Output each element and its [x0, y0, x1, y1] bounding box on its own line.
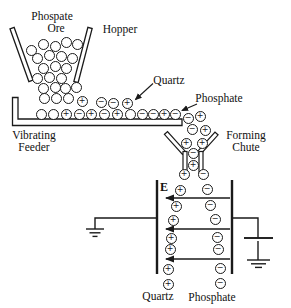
- left-ground-circuit: [86, 218, 156, 236]
- quartz-particle: +: [77, 96, 88, 107]
- phosphate-particle: −: [198, 169, 209, 180]
- ore-particle: [32, 53, 43, 64]
- quartz-particle: +: [163, 264, 174, 275]
- ore-particle: [56, 51, 67, 62]
- electrostatic-separation-diagram: +−−++−+−+−−+−−+−+++−++−+−+−+−+−+−+−+− Ph…: [0, 0, 291, 308]
- phosphate-particle: −: [74, 109, 85, 120]
- quartz-particle: +: [61, 109, 72, 120]
- phosphate-particle: −: [210, 214, 221, 225]
- quartz-particle: +: [122, 98, 133, 109]
- quartz-particle: +: [175, 185, 186, 196]
- quartz-particle: +: [159, 109, 170, 120]
- phosphate-particle: −: [202, 184, 213, 195]
- ore-particle: [48, 109, 59, 120]
- ore-particle: [61, 63, 72, 74]
- left-plate-wire: [95, 218, 156, 229]
- phosphate-particle: −: [215, 278, 226, 289]
- forming-chute-label-line2: Chute: [232, 141, 259, 153]
- quartz-particle: +: [165, 244, 176, 255]
- quartz-particle: +: [86, 109, 97, 120]
- quartz-particle: +: [195, 111, 206, 122]
- ore-particle: [50, 82, 61, 93]
- quartz-particle: +: [197, 138, 208, 149]
- separator-left-plate: [156, 180, 158, 274]
- vibrating-feeder-label-line2: Feeder: [18, 141, 49, 153]
- ore-particle: [72, 39, 83, 50]
- ore-particle: [63, 93, 74, 104]
- vibrating-feeder-label-line1: Vibrating: [12, 129, 55, 141]
- quartz-particle: +: [166, 233, 177, 244]
- right-battery-circuit: [233, 218, 273, 267]
- phosphate-particle: −: [137, 109, 148, 120]
- ore-particle: [61, 37, 72, 48]
- quartz-particle: +: [188, 160, 199, 171]
- quartz-particle: +: [181, 138, 192, 149]
- ore-particle: [71, 82, 82, 93]
- phosphate-callout-label: Phosphate: [195, 92, 242, 104]
- quartz-particle: +: [200, 125, 211, 136]
- phosphate-pointer-arrow: [182, 104, 197, 111]
- phosphate-particle: −: [213, 244, 224, 255]
- phosphate-particle: −: [183, 113, 194, 124]
- ore-particle: [67, 53, 78, 64]
- phosphate-particle: −: [187, 124, 198, 135]
- phosphate-particle: −: [212, 232, 223, 243]
- quartz-particle: +: [112, 109, 123, 120]
- ore-particle: [38, 39, 49, 50]
- phosphate-particle: −: [170, 109, 181, 120]
- phosphate-particle: −: [215, 263, 226, 274]
- ore-particle: [44, 72, 55, 83]
- quartz-particle: +: [163, 279, 174, 290]
- ore-particle: [44, 50, 55, 61]
- ground-symbol-right: [247, 260, 270, 267]
- phosphate-ore-label-line1: Phospate: [31, 10, 73, 22]
- ore-particle: [32, 73, 43, 84]
- ore-particle: [36, 109, 47, 120]
- quartz-callout-label: Quartz: [153, 74, 184, 86]
- phosphate-particle: −: [205, 200, 216, 211]
- quartz-particle: +: [171, 201, 182, 212]
- ground-symbol-left: [86, 229, 104, 236]
- quartz-particle: +: [168, 215, 179, 226]
- quartz-particle: +: [179, 169, 190, 180]
- phosphate-particle: −: [188, 148, 199, 159]
- quartz-pointer-arrow: [136, 84, 154, 100]
- phosphate-particle: −: [99, 109, 110, 120]
- quartz-output-label: Quartz: [142, 290, 173, 302]
- separator-right-plate: [231, 180, 233, 274]
- ore-particle: [39, 93, 50, 104]
- ore-particle: [50, 61, 61, 72]
- right-plate-wire: [233, 218, 258, 238]
- phosphate-output-label: Phosphate: [188, 291, 235, 303]
- phosphate-particle: −: [96, 97, 107, 108]
- ore-particle: [51, 93, 62, 104]
- electric-field-label: E: [160, 181, 168, 193]
- ore-particle: [60, 83, 71, 94]
- ore-particle: [38, 83, 49, 94]
- forming-chute-label-line1: Forming: [226, 129, 266, 141]
- hopper-label: Hopper: [103, 23, 138, 35]
- phosphate-particle: −: [148, 109, 159, 120]
- phosphate-particle: −: [108, 98, 119, 109]
- phosphate-ore-label-line2: Ore: [47, 22, 64, 34]
- ore-particle: [125, 109, 136, 120]
